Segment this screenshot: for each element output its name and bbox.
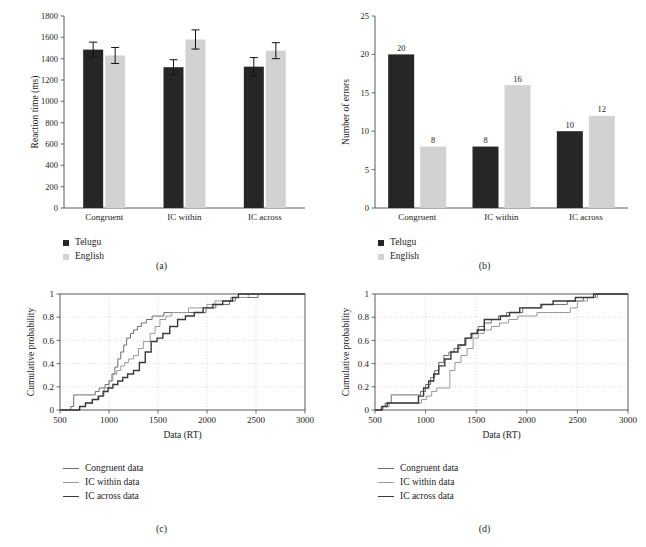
y-tick-label: 0: [365, 405, 370, 415]
panel-c-cumulative-probability: 5001000150020002500300000.20.40.60.81Dat…: [0, 280, 323, 547]
y-tick-label: 10: [361, 126, 370, 136]
plot-area-c: 5001000150020002500300000.20.40.60.81Dat…: [26, 289, 315, 441]
bar-english-congruent: [420, 147, 446, 208]
x-category-label: IC within: [167, 212, 202, 222]
x-category-label: IC across: [248, 212, 282, 222]
plot-frame: [60, 294, 305, 410]
panel-c-legend: Congruent data IC within data IC across …: [63, 462, 143, 504]
y-tick-label: 1200: [41, 75, 58, 85]
bar-value-label: 20: [397, 43, 406, 53]
y-tick-label: 200: [45, 182, 58, 192]
x-tick-label: 1000: [417, 415, 436, 425]
ic-within-line-icon: [378, 482, 394, 483]
telugu-swatch-icon: [63, 240, 69, 246]
figure-container: 020040060080010001200140016001800Reactio…: [0, 0, 646, 547]
y-tick-label: 5: [365, 165, 369, 175]
x-tick-label: 2000: [518, 415, 537, 425]
cdf-curve-ic-within-data: [375, 294, 628, 410]
bar-telugu-ic-across: [557, 131, 583, 208]
x-tick-label: 3000: [296, 415, 315, 425]
panel-c-caption: (c): [0, 523, 323, 534]
cdf-curve-ic-within-data: [60, 294, 305, 410]
legend-item-ic-across-data: IC across data: [63, 490, 143, 503]
x-category-label: IC within: [484, 212, 519, 222]
english-swatch-icon: [378, 254, 384, 260]
legend-item-telugu: Telugu: [378, 236, 419, 249]
y-tick-label: 0.4: [358, 359, 370, 369]
panel-a-chart: 020040060080010001200140016001800Reactio…: [0, 0, 323, 232]
plot-area-b: 0510152025Number of errors208Congruent81…: [341, 11, 628, 222]
legend-item-ic-within-data: IC within data: [378, 476, 458, 489]
x-tick-label: 500: [53, 415, 67, 425]
plot-area-a: 020040060080010001200140016001800Reactio…: [30, 11, 305, 222]
cdf-curve-congruent-data: [60, 294, 305, 410]
panel-d-cumulative-probability: 5001000150020002500300000.20.40.60.81Dat…: [323, 280, 646, 547]
y-tick-label: 15: [361, 88, 370, 98]
x-tick-label: 2500: [247, 415, 266, 425]
page-bottom-bleed-text: [0, 541, 646, 547]
cdf-curve-ic-across-data: [60, 294, 305, 410]
bar-english-ic-within: [186, 39, 206, 208]
y-tick-label: 25: [361, 11, 370, 21]
y-tick-label: 0: [50, 405, 55, 415]
y-tick-label: 0: [54, 203, 58, 213]
x-category-label: Congruent: [85, 212, 123, 222]
x-category-label: Congruent: [398, 212, 436, 222]
x-category-label: IC across: [569, 212, 603, 222]
bar-english-congruent: [105, 55, 125, 208]
panel-b-chart: 0510152025Number of errors208Congruent81…: [323, 0, 646, 232]
ic-across-line-icon: [378, 496, 394, 497]
legend-label-congruent-data: Congruent data: [85, 462, 143, 475]
x-tick-label: 3000: [619, 415, 638, 425]
legend-label-ic-across-data: IC across data: [400, 490, 454, 503]
legend-label-telugu: Telugu: [390, 236, 416, 249]
legend-label-ic-within-data: IC within data: [85, 476, 139, 489]
ic-across-line-icon: [63, 496, 79, 497]
bar-telugu-ic-within: [164, 67, 184, 208]
y-tick-label: 400: [45, 160, 58, 170]
legend-item-ic-across-data: IC across data: [378, 490, 458, 503]
x-tick-label: 1500: [467, 415, 486, 425]
legend-item-telugu: Telugu: [63, 236, 104, 249]
panel-b-number-of-errors: 0510152025Number of errors208Congruent81…: [323, 0, 646, 280]
y-axis-title: Cumulative probability: [26, 308, 36, 397]
legend-label-ic-across-data: IC across data: [85, 490, 139, 503]
bar-english-ic-within: [505, 85, 531, 208]
panel-d-caption: (d): [323, 523, 646, 534]
plot-area-d: 5001000150020002500300000.20.40.60.81Dat…: [341, 289, 638, 441]
panel-a-caption: (a): [0, 260, 323, 271]
legend-label-telugu: Telugu: [75, 236, 101, 249]
y-tick-label: 0.2: [358, 382, 369, 392]
x-axis-title: Data (RT): [163, 430, 201, 441]
x-tick-label: 1000: [100, 415, 119, 425]
y-tick-label: 1600: [41, 32, 58, 42]
bar-telugu-congruent: [388, 54, 414, 208]
bar-english-ic-across: [589, 116, 615, 208]
legend-label-ic-within-data: IC within data: [400, 476, 454, 489]
bar-value-label: 8: [483, 135, 487, 145]
y-tick-label: 0.2: [43, 382, 54, 392]
bar-telugu-ic-across: [244, 67, 264, 208]
cdf-curve-ic-across-data: [375, 294, 628, 410]
y-tick-label: 0.8: [43, 312, 55, 322]
bar-value-label: 12: [598, 104, 607, 114]
legend-item-congruent-data: Congruent data: [63, 462, 143, 475]
panel-a-reaction-time: 020040060080010001200140016001800Reactio…: [0, 0, 323, 280]
y-tick-label: 1: [50, 289, 55, 299]
y-tick-label: 0.6: [358, 336, 370, 346]
y-tick-label: 20: [361, 49, 370, 59]
x-tick-label: 1500: [149, 415, 168, 425]
y-tick-label: 0.6: [43, 336, 55, 346]
legend-item-congruent-data: Congruent data: [378, 462, 458, 475]
x-tick-label: 2000: [198, 415, 217, 425]
y-axis-title: Reaction time (ms): [30, 76, 41, 149]
y-tick-label: 0.4: [43, 359, 55, 369]
y-tick-label: 1000: [41, 96, 58, 106]
x-tick-label: 2500: [568, 415, 587, 425]
telugu-swatch-icon: [378, 240, 384, 246]
x-axis-title: Data (RT): [482, 430, 520, 441]
panel-b-caption: (b): [323, 260, 646, 271]
congruent-line-icon: [63, 468, 79, 469]
bar-value-label: 16: [513, 74, 522, 84]
legend-label-congruent-data: Congruent data: [400, 462, 458, 475]
